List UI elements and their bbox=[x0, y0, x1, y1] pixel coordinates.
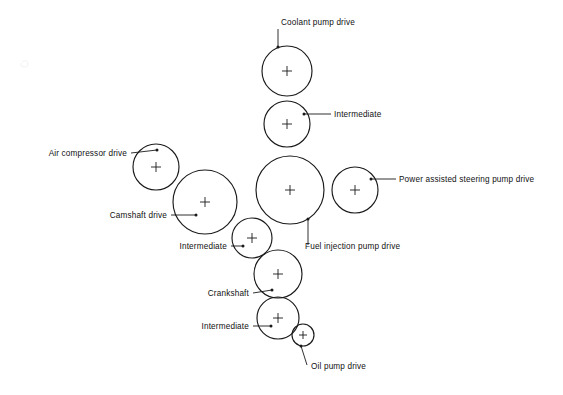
label-text-intermediate-middle: Intermediate bbox=[180, 242, 228, 251]
gear-fuel-injection-pump-drive[interactable] bbox=[256, 156, 324, 224]
label-text-intermediate-top: Intermediate bbox=[334, 110, 382, 119]
label-oil-pump-drive[interactable]: Oil pump drive bbox=[300, 345, 367, 372]
leader-dot-intermediate-middle bbox=[242, 245, 245, 248]
label-text-crankshaft: Crankshaft bbox=[208, 289, 250, 298]
leader-dot-fuel-injection-pump-drive bbox=[307, 218, 310, 221]
gear-intermediate-middle[interactable] bbox=[232, 218, 272, 258]
gear-oil-pump-drive[interactable] bbox=[292, 324, 314, 346]
gear-train-diagram: Coolant pump driveIntermediateAir compre… bbox=[0, 0, 563, 395]
gear-intermediate-top[interactable] bbox=[264, 101, 310, 147]
leader-dot-power-assisted-steering-pump-drive bbox=[370, 178, 373, 181]
leader-line-air-compressor-drive bbox=[131, 150, 157, 153]
label-text-camshaft-drive: Camshaft drive bbox=[110, 211, 168, 220]
label-intermediate-top[interactable]: Intermediate bbox=[303, 110, 382, 119]
label-text-fuel-injection-pump-drive: Fuel injection pump drive bbox=[305, 242, 400, 251]
scan-artifact bbox=[21, 61, 28, 67]
gear-coolant-pump-drive[interactable] bbox=[262, 46, 312, 96]
leader-dot-intermediate-bottom bbox=[270, 325, 273, 328]
label-air-compressor-drive[interactable]: Air compressor drive bbox=[49, 149, 159, 159]
label-text-intermediate-bottom: Intermediate bbox=[202, 322, 250, 331]
leader-line-oil-pump-drive bbox=[301, 346, 307, 365]
leader-dot-crankshaft bbox=[271, 289, 274, 292]
gears-layer bbox=[133, 46, 378, 346]
gear-camshaft-drive[interactable] bbox=[173, 170, 237, 234]
label-intermediate-middle[interactable]: Intermediate bbox=[180, 242, 245, 251]
gear-power-assisted-steering-pump-drive[interactable] bbox=[332, 167, 378, 213]
leader-dot-air-compressor-drive bbox=[156, 149, 159, 152]
leader-dot-intermediate-top bbox=[303, 113, 306, 116]
label-intermediate-bottom[interactable]: Intermediate bbox=[202, 322, 273, 331]
label-text-power-assisted-steering-pump-drive: Power assisted steering pump drive bbox=[399, 175, 535, 184]
leader-dot-camshaft-drive bbox=[195, 214, 198, 217]
label-power-assisted-steering-pump-drive[interactable]: Power assisted steering pump drive bbox=[370, 175, 535, 184]
label-camshaft-drive[interactable]: Camshaft drive bbox=[110, 211, 198, 220]
gear-crankshaft[interactable] bbox=[254, 250, 302, 298]
label-text-coolant-pump-drive: Coolant pump drive bbox=[281, 18, 355, 27]
label-fuel-injection-pump-drive[interactable]: Fuel injection pump drive bbox=[305, 218, 400, 252]
label-coolant-pump-drive[interactable]: Coolant pump drive bbox=[277, 18, 356, 49]
label-text-air-compressor-drive: Air compressor drive bbox=[49, 149, 128, 158]
leader-dot-coolant-pump-drive bbox=[277, 46, 280, 49]
leader-dot-oil-pump-drive bbox=[300, 345, 303, 348]
label-text-oil-pump-drive: Oil pump drive bbox=[311, 362, 366, 371]
